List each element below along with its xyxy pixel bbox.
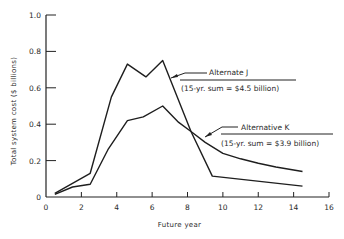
- note-alternative-k: (15-yr. sum = $3.9 billion): [221, 139, 319, 148]
- arrowhead-alternative-k: [205, 132, 212, 137]
- y-tick-label: 0.2: [29, 157, 41, 166]
- y-tick-label: 1.0: [29, 11, 41, 20]
- series-annotations: Alternate J (15-yr. sum = $4.5 billion) …: [171, 68, 333, 148]
- label-alternative-k: Alternative K: [241, 123, 291, 132]
- x-tick-label: 0: [44, 203, 49, 212]
- x-tick-label: 8: [185, 203, 190, 212]
- label-alternate-j: Alternate J: [209, 68, 248, 77]
- arrowhead-alternate-j: [171, 74, 178, 78]
- x-tick-label: 10: [218, 203, 228, 212]
- y-axis-label: Total system cost ($ billions): [10, 57, 18, 167]
- cost-line-chart: 024681012141600.20.40.60.81.0Future year…: [0, 0, 344, 239]
- y-tick-label: 0: [36, 193, 41, 202]
- note-alternate-j: (15-yr. sum = $4.5 billion): [181, 84, 279, 93]
- x-tick-label: 14: [289, 203, 299, 212]
- x-axis-label: Future year: [158, 221, 201, 229]
- y-tick-label: 0.6: [29, 84, 41, 93]
- x-tick-label: 4: [114, 203, 119, 212]
- y-tick-label: 0.4: [29, 120, 41, 129]
- x-tick-label: 6: [150, 203, 155, 212]
- y-tick-label: 0.8: [29, 47, 41, 56]
- axes: 024681012141600.20.40.60.81.0Future year…: [10, 11, 334, 229]
- x-tick-label: 2: [79, 203, 84, 212]
- x-tick-label: 12: [253, 203, 263, 212]
- x-tick-label: 16: [324, 203, 334, 212]
- series-line-alternative-k: [55, 106, 303, 194]
